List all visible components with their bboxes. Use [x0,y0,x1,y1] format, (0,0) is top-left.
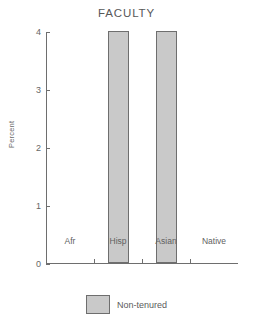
bar-chart: FACULTY Percent 01234 AfrHispAsianNative… [0,0,253,323]
x-tick-label: Hisp [109,236,126,246]
bar [108,31,129,263]
y-tick-mark [46,264,50,265]
x-tick-label: Native [202,236,226,246]
x-tick-label: Afr [65,236,76,246]
x-tick-mark [142,259,143,264]
legend-swatch-non-tenured [86,295,110,314]
x-tick-label: Asian [155,236,176,246]
y-tick-label: 1 [36,201,41,211]
y-axis-title: Percent [7,121,16,148]
x-tick-mark [94,259,95,264]
y-tick-mark [46,32,50,33]
chart-legend: Non-tenured [0,295,253,314]
plot-area: 01234 [46,32,238,264]
y-tick-mark [46,90,50,91]
y-tick-mark [46,148,50,149]
y-tick-mark [46,206,50,207]
chart-title: FACULTY [0,7,253,19]
legend-label-non-tenured: Non-tenured [117,300,167,310]
bar [156,31,177,263]
x-tick-mark [190,259,191,264]
y-tick-label: 4 [36,27,41,37]
y-tick-label: 0 [36,259,41,269]
y-tick-label: 3 [36,85,41,95]
y-tick-label: 2 [36,143,41,153]
